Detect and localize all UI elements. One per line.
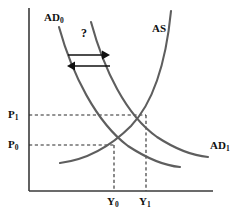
shift-left-arrow	[67, 62, 110, 71]
ad-as-diagram: AD0 AS AD1 ? P1 P0 Y0 Y1	[0, 0, 241, 218]
curve-ad1	[91, 22, 208, 157]
axis-label-y0: Y0	[107, 196, 119, 207]
label-ad0: AD0	[44, 12, 64, 23]
axis-label-y1: Y1	[139, 196, 151, 207]
curve-ad0	[59, 27, 180, 167]
label-ad1: AD1	[210, 140, 230, 151]
label-as: AS	[152, 23, 166, 34]
shift-right-arrow	[68, 51, 110, 60]
diagram-canvas	[0, 0, 241, 218]
axis-label-p1: P1	[8, 109, 18, 120]
question-mark-annotation: ?	[81, 26, 87, 41]
axis-label-p0: P0	[8, 139, 18, 150]
